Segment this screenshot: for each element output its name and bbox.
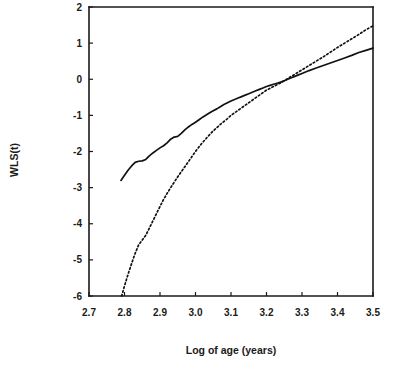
axis-spines xyxy=(89,7,373,296)
y-axis-title: WLS(t) xyxy=(8,143,20,177)
series-dotted-curve xyxy=(122,26,373,296)
y-axis-ticks: 210-1-2-3-4-5-6 xyxy=(73,2,93,302)
x-tick-label: 3.1 xyxy=(224,307,238,318)
chart-figure: WLS(t) Log of age (years) 210-1-2-3-4-5-… xyxy=(0,0,394,371)
y-tick-label: 2 xyxy=(76,2,82,13)
y-tick-label: -6 xyxy=(73,291,82,302)
x-tick-label: 3.3 xyxy=(295,307,309,318)
y-tick-label: -4 xyxy=(73,218,82,229)
x-tick-label: 2.9 xyxy=(153,307,167,318)
x-tick-label: 2.7 xyxy=(82,307,96,318)
x-tick-label: 2.8 xyxy=(118,307,132,318)
x-tick-label: 3.2 xyxy=(260,307,274,318)
y-tick-label: -1 xyxy=(73,110,82,121)
x-tick-label: 3.4 xyxy=(331,307,345,318)
y-tick-label: -5 xyxy=(73,254,82,265)
x-axis-title: Log of age (years) xyxy=(186,344,276,356)
y-tick-label: 0 xyxy=(76,74,82,85)
y-tick-label: -2 xyxy=(73,146,82,157)
x-tick-label: 3.5 xyxy=(366,307,380,318)
x-tick-label: 3.0 xyxy=(189,307,203,318)
series-layer xyxy=(121,26,373,296)
line-chart: WLS(t) Log of age (years) 210-1-2-3-4-5-… xyxy=(0,0,394,371)
series-solid-curve xyxy=(121,48,373,180)
y-tick-label: -3 xyxy=(73,182,82,193)
y-tick-label: 1 xyxy=(76,38,82,49)
